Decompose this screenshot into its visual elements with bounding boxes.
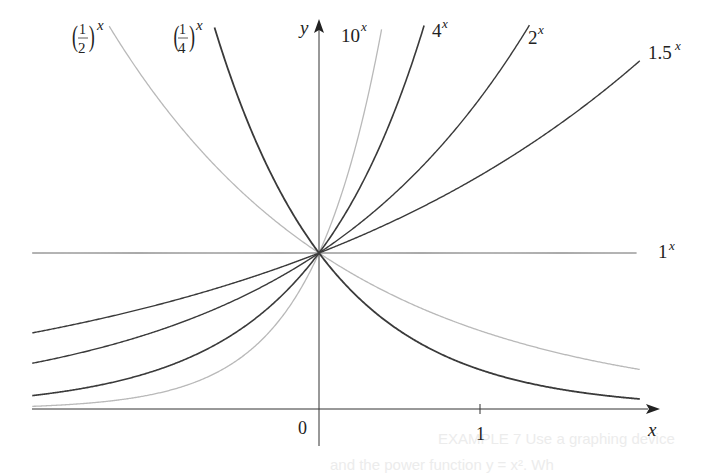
label-ten-base: 10 xyxy=(341,25,360,46)
label-four: 4 x xyxy=(432,16,448,41)
curve-group xyxy=(32,25,640,406)
y-axis-label: y xyxy=(298,17,309,38)
ghost-line-1: EXAMPLE 7 Use a graphing device xyxy=(438,430,675,447)
label-four-exp: x xyxy=(441,16,448,31)
ghost-line-2: and the power function y = x². Wh xyxy=(330,456,554,473)
axes xyxy=(32,19,660,446)
label-half-exp: x xyxy=(96,17,104,33)
label-half-num: 1 xyxy=(79,22,86,37)
curve-1-4-x xyxy=(215,28,640,399)
label-one: 1 x xyxy=(658,238,675,262)
label-onefive-exp: x xyxy=(674,38,681,53)
label-onefive-base: 1.5 xyxy=(648,42,672,63)
curve-4-x xyxy=(32,26,424,396)
paren-right: ) xyxy=(189,19,195,53)
x-axis-arrow-icon xyxy=(646,404,660,414)
label-quarter-num: 1 xyxy=(179,22,186,37)
label-two: 2 x xyxy=(528,22,544,48)
curve-1-2-x xyxy=(109,26,640,369)
label-four-base: 4 xyxy=(432,20,442,41)
label-ten-exp: x xyxy=(360,19,367,34)
label-onefive: 1.5 x xyxy=(648,38,681,63)
exponential-functions-chart: EXAMPLE 7 Use a graphing device and the … xyxy=(0,0,702,475)
x-tick-label-1: 1 xyxy=(476,424,485,444)
label-quarter-den: 4 xyxy=(178,40,186,56)
label-half: ( 1 2 ) x xyxy=(72,17,104,56)
x-axis-label: x xyxy=(647,419,657,440)
origin-label: 0 xyxy=(298,418,307,438)
label-ten: 10 x xyxy=(341,19,367,46)
label-one-base: 1 xyxy=(658,241,668,262)
label-two-exp: x xyxy=(537,22,544,37)
label-quarter-exp: x xyxy=(195,17,203,33)
label-half-den: 2 xyxy=(78,40,86,56)
paren-right: ) xyxy=(89,19,95,53)
label-quarter: ( 1 4 ) x xyxy=(173,17,203,56)
label-one-exp: x xyxy=(668,238,675,253)
label-two-base: 2 xyxy=(528,27,538,48)
bleed-through-text: EXAMPLE 7 Use a graphing device and the … xyxy=(330,430,675,473)
curve-1-5-x xyxy=(32,61,640,333)
